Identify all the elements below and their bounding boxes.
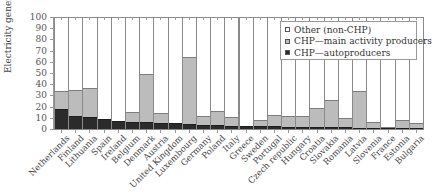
- segment-other: [183, 18, 196, 57]
- y-tick-label: 10: [25, 113, 47, 123]
- y-tick-label: 50: [25, 68, 47, 78]
- segment-other: [126, 18, 139, 112]
- segment-main-activity: [140, 74, 153, 122]
- x-tick-mark: [260, 17, 261, 20]
- segment-main-activity: [268, 115, 281, 126]
- segment-main-activity: [55, 91, 68, 109]
- segment-other: [240, 18, 253, 126]
- segment-main-activity: [310, 108, 323, 126]
- chp-share-chart: Electricity generation share (%) 0102030…: [0, 0, 440, 195]
- bar-belgium: [125, 17, 140, 129]
- segment-other: [98, 18, 111, 119]
- bar-united-kingdom: [168, 17, 183, 129]
- bar-greece: [239, 17, 254, 129]
- segment-main-activity: [183, 57, 196, 124]
- x-tick-mark: [246, 130, 247, 133]
- x-tick-mark: [118, 17, 119, 20]
- y-tick-label: 70: [25, 46, 47, 56]
- segment-autoproducers: [69, 116, 82, 129]
- segment-other: [140, 18, 153, 74]
- segment-autoproducers: [55, 109, 68, 129]
- x-tick-mark: [104, 17, 105, 20]
- x-tick-mark: [217, 130, 218, 133]
- bar-ireland: [111, 17, 126, 129]
- segment-main-activity: [225, 117, 238, 126]
- segment-other: [169, 18, 182, 123]
- x-axis-line: [53, 129, 424, 130]
- x-tick-mark: [231, 17, 232, 20]
- segment-main-activity: [353, 91, 366, 128]
- x-tick-mark: [274, 130, 275, 133]
- legend-label: CHP—main activity producers: [294, 36, 432, 46]
- segment-main-activity: [296, 116, 309, 127]
- x-tick-mark: [146, 130, 147, 133]
- x-tick-mark: [388, 17, 389, 20]
- x-tick-mark: [217, 17, 218, 20]
- x-tick-mark: [260, 130, 261, 133]
- x-tick-mark: [331, 130, 332, 133]
- segment-autoproducers: [83, 117, 96, 129]
- x-tick-mark: [359, 17, 360, 20]
- x-tick-mark: [61, 17, 62, 20]
- bar-spain: [97, 17, 112, 129]
- x-tick-mark: [345, 130, 346, 133]
- x-tick-mark: [402, 130, 403, 133]
- segment-other: [211, 18, 224, 111]
- x-tick-mark: [373, 130, 374, 133]
- segment-other: [225, 18, 238, 117]
- bar-austria: [153, 17, 168, 129]
- segment-other: [69, 18, 82, 90]
- segment-autoproducers: [112, 121, 125, 129]
- legend-item-other: Other (non-CHP): [285, 24, 412, 36]
- x-tick-mark: [345, 17, 346, 20]
- segment-main-activity: [197, 116, 210, 125]
- x-tick-mark: [89, 130, 90, 133]
- segment-main-activity: [325, 100, 338, 127]
- segment-other: [197, 18, 210, 116]
- bar-germany: [196, 17, 211, 129]
- x-tick-mark: [175, 130, 176, 133]
- x-tick-mark: [288, 130, 289, 133]
- y-axis-label: Electricity generation share (%): [3, 0, 15, 73]
- segment-other: [254, 18, 267, 120]
- segment-main-activity: [282, 116, 295, 127]
- y-tick-label: 20: [25, 102, 47, 112]
- x-tick-mark: [189, 130, 190, 133]
- x-tick-mark: [231, 130, 232, 133]
- segment-main-activity: [126, 112, 139, 122]
- x-tick-mark: [246, 17, 247, 20]
- x-tick-mark: [416, 130, 417, 133]
- segment-autoproducers: [140, 122, 153, 129]
- segment-autoproducers: [98, 119, 111, 129]
- bar-italy: [224, 17, 239, 129]
- bar-luxembourg: [182, 17, 197, 129]
- legend-item-main-activity: CHP—main activity producers: [285, 36, 412, 48]
- y-tick-label: 30: [25, 90, 47, 100]
- x-tick-mark: [61, 130, 62, 133]
- legend-item-autoproducers: CHP—autoproducers: [285, 47, 412, 59]
- bar-sweden: [253, 17, 268, 129]
- legend-label: CHP—autoproducers: [294, 48, 390, 58]
- x-tick-mark: [317, 130, 318, 133]
- segment-other: [83, 18, 96, 88]
- segment-main-activity: [154, 113, 167, 123]
- segment-other: [55, 18, 68, 91]
- y-tick-label: 80: [25, 34, 47, 44]
- x-tick-mark: [288, 17, 289, 20]
- y-axis-line: [53, 17, 54, 129]
- y-tick-label: 90: [25, 23, 47, 33]
- x-tick-mark: [317, 17, 318, 20]
- segment-other: [154, 18, 167, 113]
- legend-label: Other (non-CHP): [294, 25, 371, 35]
- segment-other: [112, 18, 125, 121]
- x-tick-mark: [132, 130, 133, 133]
- bar-netherlands: [54, 17, 69, 129]
- x-tick-mark: [175, 17, 176, 20]
- x-tick-mark: [160, 130, 161, 133]
- segment-main-activity: [69, 90, 82, 116]
- y-tick-label: 0: [25, 124, 47, 134]
- x-tick-mark: [203, 130, 204, 133]
- x-tick-mark: [373, 17, 374, 20]
- swatch-main-activity-icon: [285, 39, 290, 44]
- x-tick-mark: [302, 17, 303, 20]
